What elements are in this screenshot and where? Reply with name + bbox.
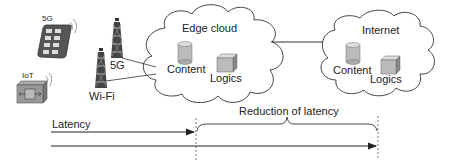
tower-wifi-link	[106, 74, 156, 81]
tower-5g-label: 5G	[110, 60, 125, 71]
tower-wifi-label: Wi-Fi	[89, 91, 115, 102]
latency-label: Latency	[52, 119, 91, 130]
edge-content-label: Content	[167, 64, 206, 75]
internet-cloud-title: Internet	[362, 25, 399, 36]
reduction-brace	[197, 117, 377, 131]
edge-cloud-title: Edge cloud	[182, 23, 237, 34]
reduction-latency-label: Reduction of latency	[239, 106, 339, 117]
database-icon	[346, 43, 360, 65]
logic-cube-icon	[381, 56, 400, 74]
database-icon	[178, 42, 192, 65]
cell-tower-icon	[95, 48, 107, 88]
logic-cube-icon	[217, 54, 237, 72]
edge-logics-label: Logics	[210, 73, 242, 84]
internet-logics-label: Logics	[370, 74, 402, 85]
internet-content-label: Content	[333, 65, 372, 76]
smartphone-icon	[38, 19, 77, 58]
edge-cloud-shape	[143, 5, 283, 103]
phone-5g-label: 5G	[42, 15, 53, 23]
iot-label: IoT	[22, 72, 34, 80]
cell-tower-icon	[111, 18, 123, 58]
